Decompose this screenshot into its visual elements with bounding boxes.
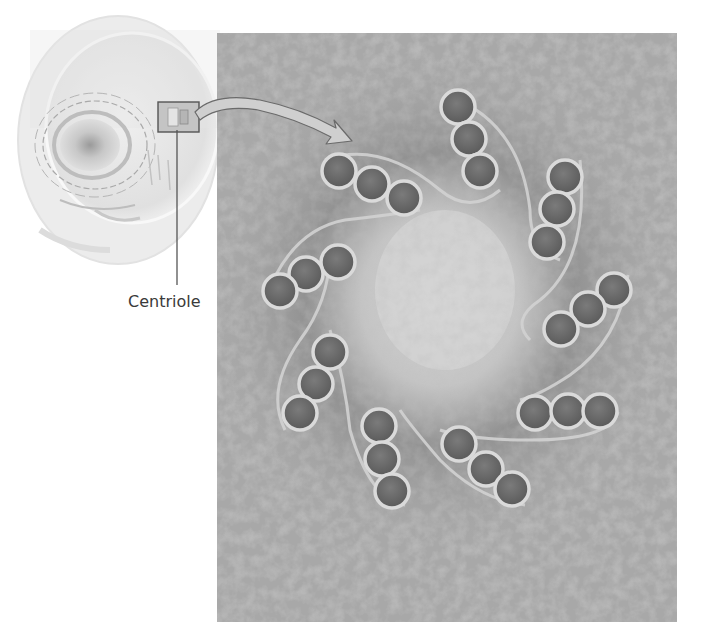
cell-illustration	[18, 16, 220, 264]
micrograph-panel	[215, 33, 677, 622]
triplet-5	[518, 394, 617, 430]
centriole-highlight-box	[158, 102, 199, 132]
figure-canvas	[0, 0, 703, 633]
centriole-label: Centriole	[128, 292, 201, 311]
centriole-figure: Centriole	[0, 0, 703, 633]
